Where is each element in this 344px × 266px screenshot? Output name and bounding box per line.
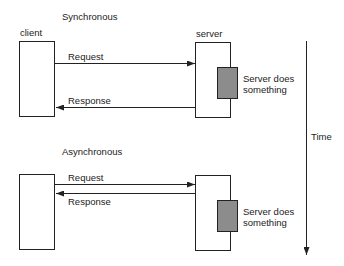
sync-response-label: Response xyxy=(68,95,111,106)
client-label: client xyxy=(20,27,42,38)
async-title: Asynchronous xyxy=(62,146,122,157)
async-response-label: Response xyxy=(68,196,111,207)
time-label: Time xyxy=(311,131,332,142)
async-server-work-box xyxy=(218,201,238,232)
sync-server-work-label-1: Server does xyxy=(243,73,294,84)
sync-server-work-label-2: something xyxy=(243,84,287,95)
async-client-box xyxy=(20,175,55,250)
sync-server-work-box xyxy=(218,68,238,99)
async-request-label: Request xyxy=(68,172,103,183)
sync-request-label: Request xyxy=(68,51,103,62)
diagram-canvas xyxy=(0,0,344,266)
async-server-work-label-2: something xyxy=(243,217,287,228)
server-label: server xyxy=(196,28,222,39)
sync-title: Synchronous xyxy=(62,11,117,22)
async-server-work-label-1: Server does xyxy=(243,206,294,217)
sync-client-box xyxy=(20,42,55,117)
